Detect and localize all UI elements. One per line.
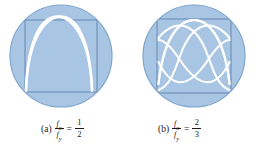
caption-b-equals: = — [184, 124, 189, 134]
caption-a-prefix: (a) — [41, 124, 52, 134]
caption-b-fy-sub: y — [176, 135, 179, 142]
caption-b-numerator: 2 — [194, 118, 200, 128]
caption-b-fx: fx — [173, 119, 180, 128]
caption-b-fx-sub: x — [176, 124, 179, 131]
caption-b: (b) fx fy = 2 3 — [158, 118, 201, 140]
caption-a: (a) fx fy = 1 2 — [41, 118, 84, 140]
caption-a-fx-sub: x — [59, 124, 62, 131]
caption-b-prefix: (b) — [158, 124, 169, 134]
lissajous-panel-b — [140, 2, 248, 110]
caption-a-ratio-value: 1 2 — [75, 118, 84, 140]
caption-b-denominator: 3 — [194, 130, 200, 140]
caption-a-fy-sub: y — [59, 135, 62, 142]
figure-captions: (a) fx fy = 1 2 (b) fx fy = 2 — [0, 112, 261, 153]
caption-a-equals: = — [67, 124, 72, 134]
caption-b-frequency-ratio: fx fy — [172, 119, 181, 139]
caption-b-fy: fy — [173, 130, 180, 139]
caption-a-numerator: 1 — [76, 118, 82, 128]
caption-a-frequency-ratio: fx fy — [55, 119, 64, 139]
caption-a-fy: fy — [55, 130, 62, 139]
lissajous-figure: (a) fx fy = 1 2 (b) fx fy = 2 — [0, 0, 261, 153]
oscilloscope-screen-b — [140, 2, 248, 110]
lissajous-panel-a — [7, 2, 115, 110]
caption-a-fx: fx — [55, 119, 62, 128]
oscilloscope-screen-a — [7, 2, 115, 110]
caption-b-ratio-value: 2 3 — [192, 118, 201, 140]
oscilloscope-panels — [0, 0, 261, 112]
caption-a-denominator: 2 — [76, 130, 82, 140]
